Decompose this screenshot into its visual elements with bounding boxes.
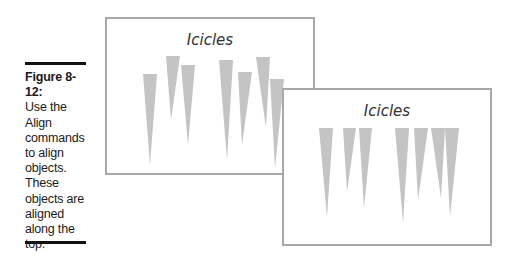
slide-after-align-top: Icicles (282, 88, 492, 246)
figure-label: Figure 8-12: (25, 70, 86, 100)
icicle-triangle (238, 72, 252, 145)
icicle-triangle (166, 56, 180, 120)
icicle-triangle (343, 128, 356, 192)
icicle-triangle (181, 65, 195, 145)
caption-line: top. (25, 237, 86, 252)
caption-line: to align (25, 146, 86, 161)
icicle-triangle (319, 128, 333, 217)
caption-line: objects. (25, 161, 86, 176)
caption-line: along the (25, 222, 86, 237)
icicle-triangle (395, 128, 409, 223)
icicle-triangle (256, 57, 270, 128)
caption-line: Use the (25, 100, 86, 115)
figure-caption: Figure 8-12: Use the Align commands to a… (25, 62, 86, 252)
caption-line: objects are (25, 192, 86, 207)
icicle-group (284, 90, 490, 244)
icicle-triangle (359, 128, 372, 208)
icicle-triangle (219, 60, 233, 160)
caption-top-rule (25, 62, 86, 65)
caption-text: Figure 8-12: Use the Align commands to a… (25, 70, 86, 252)
icicle-triangle (445, 128, 459, 217)
icicle-triangle (431, 128, 445, 198)
caption-line: commands (25, 131, 86, 146)
caption-line: These (25, 176, 86, 191)
caption-bottom-rule (25, 241, 86, 244)
caption-line: aligned (25, 207, 86, 222)
icicle-triangle (414, 128, 428, 200)
caption-line: Align (25, 116, 86, 131)
icicle-triangle (143, 74, 157, 165)
